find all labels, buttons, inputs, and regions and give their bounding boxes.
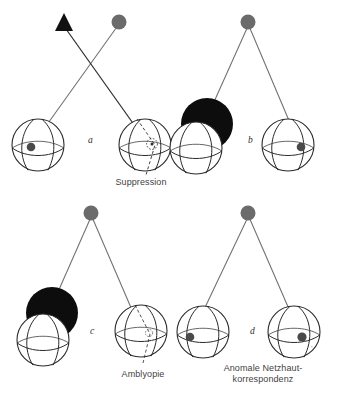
panel-b bbox=[170, 15, 314, 175]
panel-letter-b: b bbox=[248, 135, 253, 145]
panel-d bbox=[177, 206, 320, 359]
fixation-target-dot-icon bbox=[241, 15, 256, 30]
panel-d-tiny-annotation: * bbox=[311, 345, 313, 350]
figure-root: a b c d Suppression Amblyopie Anomale Ne… bbox=[0, 0, 338, 397]
anomalous-correspondence-caption-line2: korrespondenz bbox=[201, 374, 325, 385]
fovea-dot-icon bbox=[186, 333, 195, 342]
panel-b-left-eyeball bbox=[170, 122, 222, 174]
panel-letter-a: a bbox=[88, 135, 93, 145]
fixation-target-dot-icon bbox=[241, 206, 256, 221]
ray-to-amblyopic-eye bbox=[92, 217, 132, 310]
panel-b-right-eye bbox=[262, 119, 314, 171]
fixation-target-dot-icon bbox=[84, 206, 99, 221]
panel-d-left-eye bbox=[177, 306, 229, 358]
panel-a-left-eye bbox=[12, 119, 64, 171]
fovea-dot-icon bbox=[27, 143, 36, 152]
amblyopia-caption: Amblyopie bbox=[110, 369, 176, 380]
panel-c-left-eye-occluded bbox=[17, 287, 78, 366]
panel-d-right-eye bbox=[268, 306, 320, 358]
panel-c-left-eyeball bbox=[17, 314, 69, 366]
panel-c-right-eye-amblyopic bbox=[115, 305, 167, 363]
anomalous-correspondence-point-icon bbox=[297, 332, 306, 341]
deviating-target-triangle-icon bbox=[55, 13, 73, 31]
image-point-icon bbox=[151, 143, 154, 146]
fovea-dot-icon bbox=[297, 143, 306, 152]
panel-letter-d: d bbox=[250, 326, 255, 336]
binocular-vision-diagram bbox=[0, 0, 338, 397]
fixation-target-dot-icon bbox=[112, 15, 127, 30]
anomalous-correspondence-caption-line1: Anomale Netzhaut- bbox=[201, 363, 325, 374]
panel-a bbox=[12, 13, 171, 175]
panel-b-left-eye-occluded bbox=[170, 98, 233, 174]
panel-a-right-eye bbox=[119, 119, 171, 175]
panel-letter-c: c bbox=[90, 326, 94, 336]
suppression-caption: Suppression bbox=[108, 177, 174, 188]
panel-c bbox=[17, 206, 167, 367]
